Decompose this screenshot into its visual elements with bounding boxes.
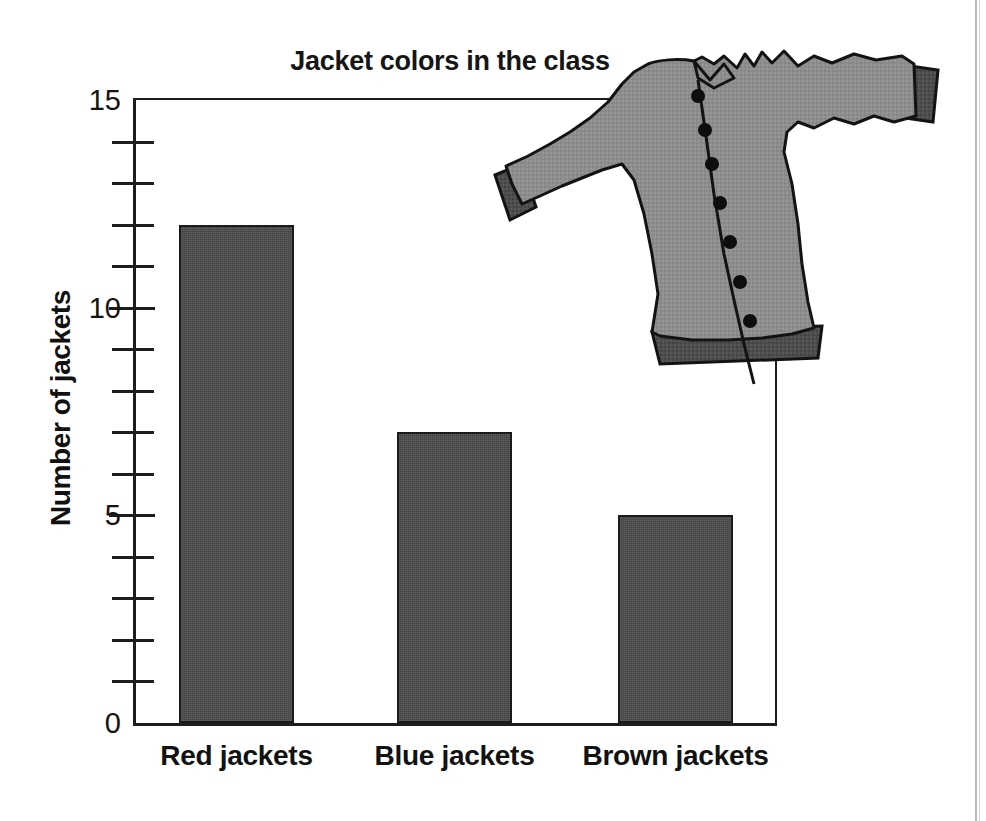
x-axis-tick-label: Red jackets — [160, 740, 312, 772]
y-axis-line — [133, 98, 136, 725]
x-axis-tick-label: Brown jackets — [583, 740, 769, 772]
y-axis-minor-tick — [112, 182, 154, 185]
y-axis-minor-tick — [112, 348, 154, 351]
y-axis-minor-tick — [112, 639, 154, 642]
plot-area: 051015 Red jacketsBlue jacketsBrown jack… — [133, 100, 777, 723]
page-right-border — [975, 0, 977, 821]
bar — [397, 432, 512, 723]
page-right-border-inner — [979, 0, 980, 821]
y-axis-minor-tick — [112, 597, 154, 600]
y-axis-minor-tick — [112, 556, 154, 559]
y-axis-minor-tick — [112, 265, 154, 268]
y-axis-title: Number of jackets — [45, 263, 77, 553]
y-axis-minor-tick — [112, 431, 154, 434]
x-axis-tick-label: Blue jackets — [375, 740, 535, 772]
y-axis-minor-tick — [112, 224, 154, 227]
y-axis-tick-label: 15 — [89, 86, 121, 115]
y-axis-minor-tick — [112, 473, 154, 476]
jacket-right-cuff — [905, 66, 938, 122]
bar — [179, 225, 294, 723]
chart-page: Jacket colors in the class Number of jac… — [0, 0, 986, 821]
bar-chart: Jacket colors in the class Number of jac… — [0, 0, 975, 821]
plot-right-border — [775, 98, 777, 725]
y-axis-minor-tick — [112, 680, 154, 683]
y-axis-minor-tick — [112, 390, 154, 393]
plot-top-border — [133, 98, 777, 100]
bar — [618, 515, 733, 723]
y-axis-tick-label: 0 — [105, 709, 121, 738]
x-axis-line — [133, 723, 777, 726]
jacket-collar — [694, 61, 734, 88]
chart-title: Jacket colors in the class — [240, 46, 660, 77]
y-axis-tick-label: 10 — [89, 293, 121, 322]
y-axis-tick-label: 5 — [105, 501, 121, 530]
y-axis-minor-tick — [112, 141, 154, 144]
